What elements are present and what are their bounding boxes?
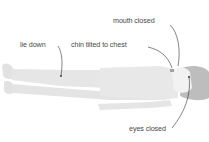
body-figure	[2, 64, 209, 110]
mouth-leader	[170, 25, 179, 66]
diagram-figure: mouth closed lie down chin tilted to che…	[0, 0, 209, 142]
lying-person-illustration	[0, 0, 209, 142]
label-eyes-closed: eyes closed	[129, 124, 166, 133]
label-lie-down: lie down	[20, 40, 46, 49]
label-mouth-closed: mouth closed	[113, 16, 155, 25]
chin-leader	[148, 47, 172, 68]
label-chin-tilted: chin tilted to chest	[71, 40, 127, 49]
